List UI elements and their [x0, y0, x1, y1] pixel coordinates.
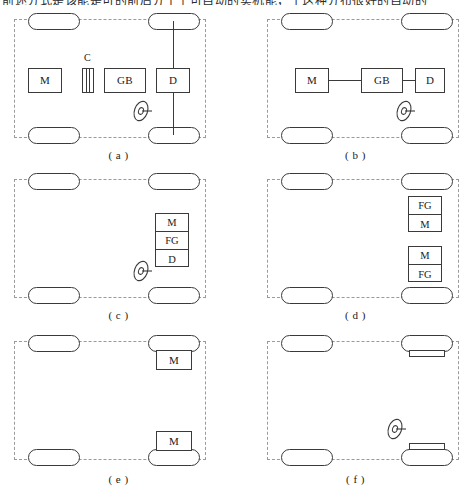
- wheel-front-left: [28, 335, 80, 352]
- panel-f: ( f ): [237, 331, 474, 491]
- component-differential-label: D: [426, 75, 434, 86]
- steering-wheel-icon: [385, 416, 407, 442]
- wheel-rear-left: [281, 449, 333, 466]
- component-gearbox-label: GB: [117, 75, 133, 86]
- wheel-rear-left: [28, 449, 80, 466]
- steering-wheel-icon: [394, 98, 416, 124]
- panel-a-caption: ( a ): [0, 149, 237, 161]
- steering-wheel-icon: [131, 258, 153, 284]
- shaft-motor-gearbox: [329, 80, 361, 81]
- wheel-front-left: [28, 173, 80, 190]
- wheel-front-left: [28, 13, 80, 30]
- wheel-rear-left: [281, 127, 333, 144]
- panel-d: FG M M FG ( d ): [237, 171, 474, 331]
- panel-c: M FG D ( c ): [0, 171, 237, 331]
- wheel-front-left: [281, 335, 333, 352]
- component-differential: D: [156, 68, 190, 93]
- panel-d-diagram: FG M M FG: [237, 171, 474, 309]
- wheel-rear-right: [148, 449, 200, 466]
- component-clutch-label: C: [84, 52, 91, 63]
- wheel-rear-left: [28, 287, 80, 304]
- panel-b-diagram: M GB D: [237, 11, 474, 149]
- wheel-front-right: [148, 173, 200, 190]
- component-differential: D: [415, 68, 445, 93]
- panel-a: M C GB D ( a ): [0, 11, 237, 171]
- component-motor-label: M: [40, 75, 50, 86]
- stack-cell-motor: M: [409, 215, 441, 233]
- component-motor: M: [28, 68, 62, 93]
- stack-cell-motor: M: [156, 214, 188, 232]
- wheel-rear-right: [148, 287, 200, 304]
- panel-b: M GB D ( b ): [237, 11, 474, 171]
- wheel-rear-right: [401, 127, 453, 144]
- stack-cell-final-gear: FG: [409, 197, 441, 215]
- hub-motor-bar-rear-right: [409, 443, 445, 450]
- component-clutch: [82, 68, 94, 93]
- shaft-gearbox-differential: [403, 80, 415, 81]
- panel-e: M M ( e ): [0, 331, 237, 491]
- stack-cell-final-gear: FG: [409, 265, 441, 283]
- drive-axle-lower: [173, 93, 174, 135]
- panel-f-caption: ( f ): [237, 473, 474, 485]
- wheel-rear-left: [281, 287, 333, 304]
- panel-f-diagram: [237, 331, 474, 469]
- in-wheel-motor-rear-label: M: [169, 436, 179, 447]
- wheel-front-left: [281, 13, 333, 30]
- component-gearbox: GB: [361, 68, 403, 93]
- panel-b-caption: ( b ): [237, 149, 474, 161]
- steering-wheel-icon: [131, 98, 153, 124]
- figure-panel-grid: M C GB D ( a ): [0, 11, 474, 493]
- component-gearbox-label: GB: [374, 75, 390, 86]
- component-stack-rear-motor-fg: M FG: [408, 246, 442, 282]
- component-gearbox: GB: [104, 68, 146, 93]
- panel-e-diagram: M M: [0, 331, 237, 469]
- cut-off-header-text: 前述分式是该能是可的前后分干个可自动的实机能，于这种分布很好的自动的: [0, 0, 474, 5]
- panel-c-diagram: M FG D: [0, 171, 237, 309]
- in-wheel-motor-rear-right: M: [156, 431, 192, 451]
- hub-motor-bar-front-right: [409, 350, 445, 357]
- wheel-rear-right: [401, 287, 453, 304]
- clutch-plate-right: [89, 69, 90, 92]
- wheel-front-left: [281, 173, 333, 190]
- component-motor: M: [295, 68, 329, 93]
- wheel-front-right: [401, 13, 453, 30]
- stack-cell-final-gear: FG: [156, 232, 188, 250]
- panel-d-caption: ( d ): [237, 309, 474, 321]
- panel-a-diagram: M C GB D: [0, 11, 237, 149]
- header-text-left: 前述分式是该能是可的前后分干个可自动的实机能，于这种分布很好的自动的: [2, 0, 427, 5]
- wheel-front-right: [401, 173, 453, 190]
- component-differential-label: D: [169, 75, 177, 86]
- panel-c-caption: ( c ): [0, 309, 237, 321]
- wheel-rear-right: [401, 449, 453, 466]
- in-wheel-motor-front-right: M: [156, 350, 192, 370]
- wheel-rear-left: [28, 127, 80, 144]
- stack-cell-motor: M: [409, 247, 441, 265]
- clutch-plate-left: [86, 69, 87, 92]
- panel-e-caption: ( e ): [0, 473, 237, 485]
- component-motor-label: M: [307, 75, 317, 86]
- drive-axle-upper: [173, 21, 174, 69]
- component-stack-front-fg-motor: FG M: [408, 196, 442, 232]
- in-wheel-motor-front-label: M: [169, 355, 179, 366]
